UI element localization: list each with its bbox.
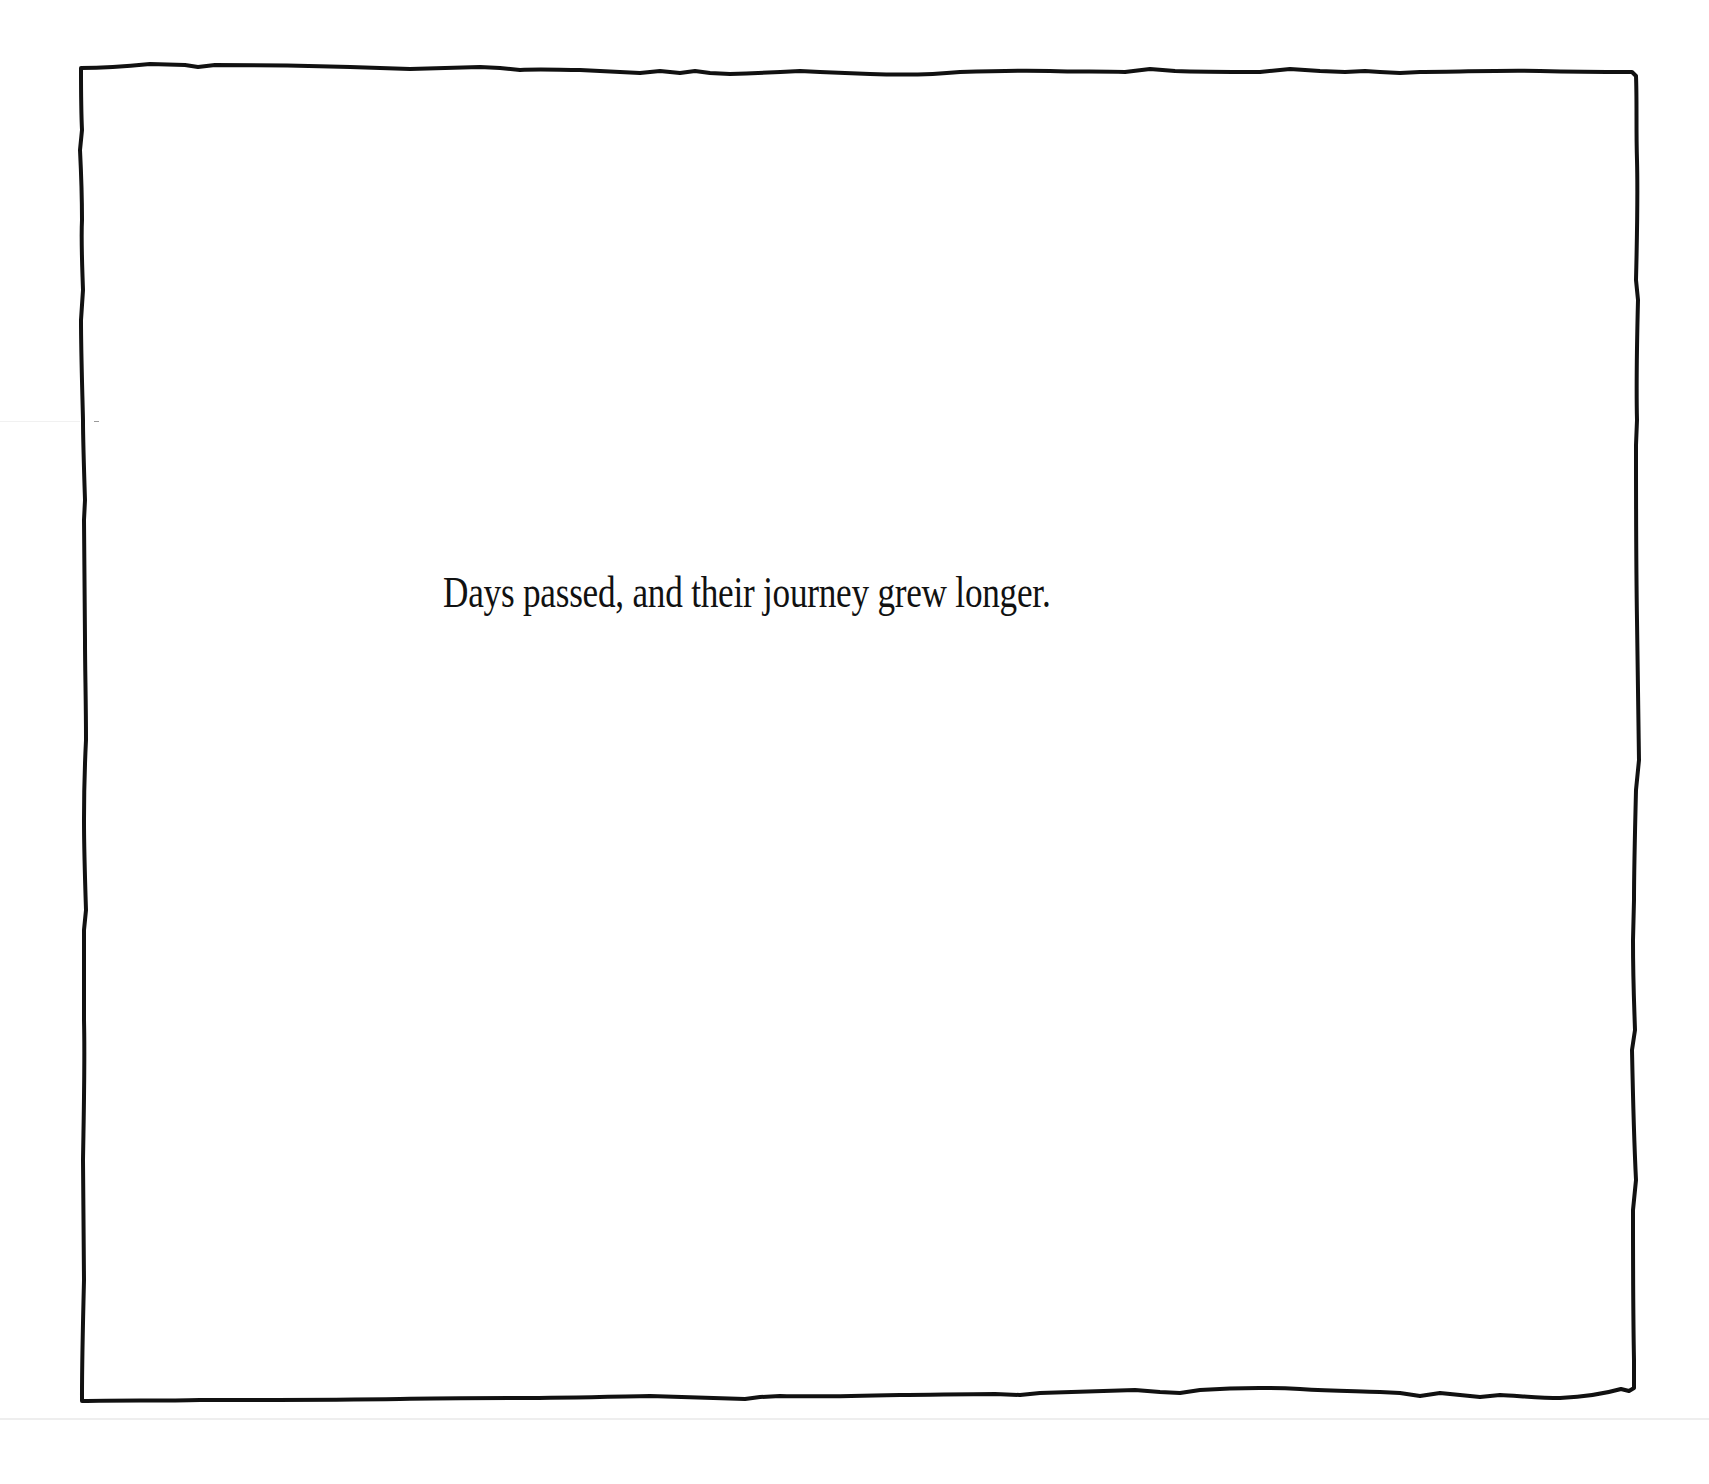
scan-speck <box>94 421 99 422</box>
hand-drawn-frame <box>0 0 1709 1484</box>
story-caption: Days passed, and their journey grew long… <box>443 568 1050 618</box>
scan-edge-line <box>0 1418 1709 1420</box>
scan-fold-mark <box>0 421 80 422</box>
book-page: Days passed, and their journey grew long… <box>0 0 1709 1484</box>
